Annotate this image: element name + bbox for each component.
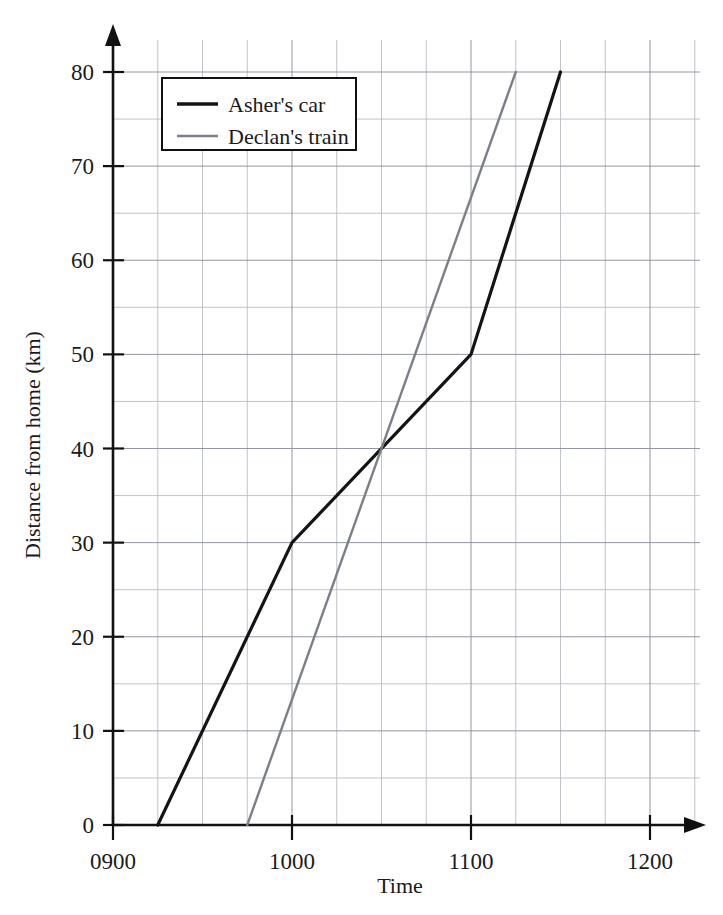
y-tick-label: 60	[71, 248, 94, 273]
y-tick-label: 40	[71, 437, 94, 462]
x-tick-label: 1100	[448, 849, 493, 874]
y-tick-label: 50	[71, 342, 94, 367]
y-axis-arrow-icon	[105, 24, 121, 46]
legend-label-car: Asher's car	[228, 92, 326, 117]
grid-major	[113, 40, 700, 825]
y-axis-title: Distance from home (km)	[20, 331, 45, 559]
distance-time-chart: 01020304050607080 0900100011001200 Dista…	[0, 0, 723, 915]
y-tick-label: 10	[71, 719, 94, 744]
chart-canvas: 01020304050607080 0900100011001200 Dista…	[0, 0, 723, 915]
y-tick-label: 80	[71, 60, 94, 85]
legend-label-train: Declan's train	[228, 124, 349, 149]
x-axis-title: Time	[377, 873, 423, 898]
legend: Asher's car Declan's train	[162, 78, 356, 150]
y-tick-label: 0	[83, 813, 95, 838]
y-axis-ticks: 01020304050607080	[71, 60, 124, 838]
x-tick-label: 1200	[627, 849, 673, 874]
x-tick-label: 0900	[90, 849, 136, 874]
y-tick-label: 30	[71, 531, 94, 556]
y-tick-label: 70	[71, 154, 94, 179]
x-tick-label: 1000	[269, 849, 315, 874]
grid-minor	[113, 40, 700, 825]
y-tick-label: 20	[71, 625, 94, 650]
